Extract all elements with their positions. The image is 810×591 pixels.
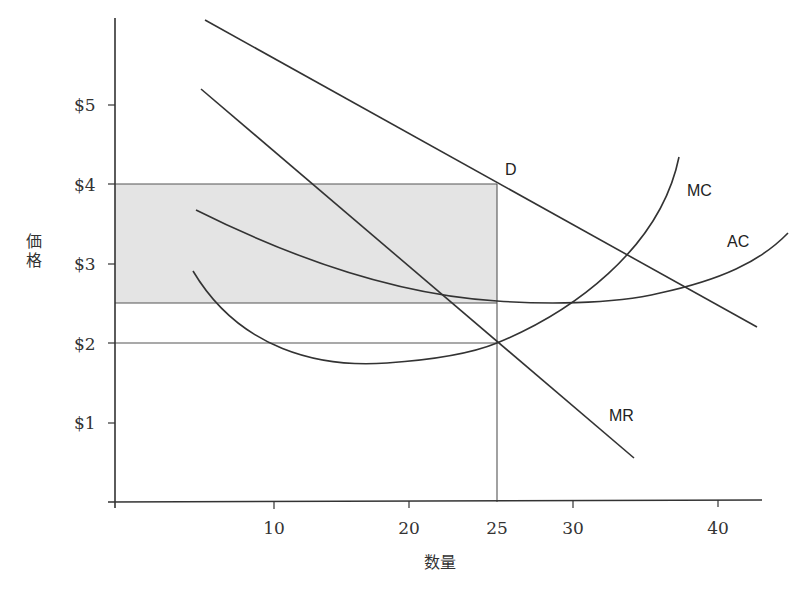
y-axis-title: 格 <box>26 251 42 270</box>
y-axis-title: 価 <box>26 232 42 251</box>
chart-canvas: $5 $4 $3 $2 $1 10 20 25 30 40 価 格 数量 D M… <box>0 0 810 591</box>
x-tick-label: 20 <box>398 518 420 538</box>
y-tick-label: $1 <box>74 413 96 433</box>
x-axis-title: 数量 <box>424 553 456 572</box>
y-tick-label: $2 <box>74 334 96 354</box>
x-axis <box>108 500 762 502</box>
demand-label: D <box>505 161 517 178</box>
ac-label: AC <box>727 233 749 250</box>
x-tick-label: 10 <box>263 518 285 538</box>
x-tick-label: 40 <box>707 518 729 538</box>
x-tick-label: 25 <box>486 518 508 538</box>
y-tick-label: $3 <box>74 254 96 274</box>
y-tick-label: $4 <box>74 175 96 195</box>
profit-area <box>115 184 497 303</box>
x-tick-label: 30 <box>562 518 584 538</box>
mc-label: MC <box>687 182 712 199</box>
y-ticks <box>108 105 115 423</box>
y-tick-label: $5 <box>74 95 96 115</box>
mr-label: MR <box>609 407 634 424</box>
